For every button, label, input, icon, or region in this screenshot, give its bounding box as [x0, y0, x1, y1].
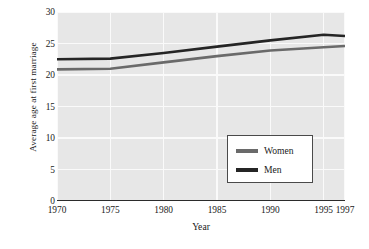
x-axis-tick-label: 1970	[35, 203, 79, 217]
x-axis-baseline	[57, 200, 345, 201]
legend-swatch-icon	[236, 168, 258, 171]
legend-label: Men	[264, 163, 282, 177]
x-axis-tick-label: 1990	[248, 203, 292, 217]
x-axis-tick-labels: 1970197519801985199019951997	[57, 203, 345, 217]
y-axis-tick-label: 10	[36, 132, 55, 144]
y-axis-tick-label: 15	[36, 101, 55, 113]
chart-legend: WomenMen	[227, 135, 313, 183]
y-axis-tick-label: 20	[36, 69, 55, 81]
series-line-men	[57, 35, 345, 60]
y-axis-tick-label: 25	[36, 38, 55, 50]
legend-entry: Women	[236, 144, 294, 158]
x-axis-tick-label: 1975	[88, 203, 132, 217]
y-axis-tick-label: 5	[36, 164, 55, 176]
x-axis-tick-label: 1985	[195, 203, 239, 217]
legend-swatch-icon	[236, 149, 258, 152]
legend-entry: Men	[236, 163, 282, 177]
x-axis-tick-label: 1980	[142, 203, 186, 217]
x-axis-tick-label: 1997	[323, 203, 367, 217]
y-axis-tick-label: 30	[36, 6, 55, 18]
legend-label: Women	[264, 144, 294, 158]
line-chart-figure: Average age at first marriage 0510152025…	[0, 0, 369, 249]
y-axis-tick-labels: 051015202530	[36, 12, 55, 201]
x-axis-title: Year	[57, 220, 345, 233]
